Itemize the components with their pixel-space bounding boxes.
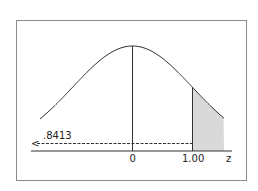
arrow-head-icon: < [31,138,39,149]
tick-label-1: 1.00 [182,153,204,164]
tick-label-0: 0 [130,153,136,164]
axis-label-z: z [226,153,231,164]
normal-distribution-diagram: < .8413 0 1.00 z [0,0,258,191]
probability-label: .8413 [43,130,72,141]
